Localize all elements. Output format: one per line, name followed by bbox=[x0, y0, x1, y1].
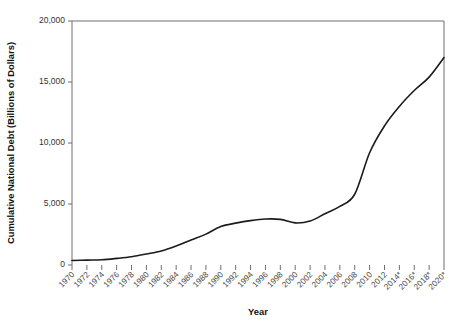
x-tick-label: 1970 bbox=[57, 270, 77, 290]
y-tick-label: 5,000 bbox=[44, 198, 66, 208]
x-tick-label: 1986 bbox=[176, 270, 196, 290]
y-axis-title: Cumulative National Debt (Billions of Do… bbox=[5, 42, 16, 244]
x-tick-label: 2004 bbox=[310, 270, 330, 290]
national-debt-line-chart: Cumulative National Debt (Billions of Do… bbox=[0, 0, 464, 329]
x-tick-label: 2010 bbox=[355, 270, 375, 290]
x-tick-label: 1984 bbox=[161, 270, 181, 290]
x-tick-label: 1990 bbox=[206, 270, 226, 290]
x-tick-label: 1980 bbox=[132, 270, 152, 290]
x-tick-label: 2002 bbox=[295, 270, 315, 290]
x-tick-label: 2020* bbox=[427, 269, 449, 291]
x-tick-label: 1982 bbox=[146, 270, 166, 290]
plot-frame bbox=[72, 21, 444, 265]
x-tick-label: 1994 bbox=[236, 270, 256, 290]
chart-container: Cumulative National Debt (Billions of Do… bbox=[0, 0, 464, 329]
x-tick-label: 2008 bbox=[340, 270, 360, 290]
y-tick-label: 15,000 bbox=[39, 76, 65, 86]
x-tick-label: 1998 bbox=[265, 270, 285, 290]
x-tick-label: 1972 bbox=[72, 270, 92, 290]
debt-series-line bbox=[72, 58, 444, 261]
x-tick-label: 1976 bbox=[102, 270, 122, 290]
x-tick-label: 1978 bbox=[117, 270, 137, 290]
y-tick-label: 20,000 bbox=[39, 15, 65, 25]
x-axis-title: Year bbox=[248, 306, 268, 317]
y-axis: 05,00010,00015,00020,000 bbox=[39, 15, 72, 269]
x-tick-label: 1992 bbox=[221, 270, 241, 290]
x-tick-label: 2006 bbox=[325, 270, 345, 290]
y-tick-label: 0 bbox=[60, 259, 65, 269]
y-tick-label: 10,000 bbox=[39, 137, 65, 147]
x-axis: 1970197219741976197819801982198419861988… bbox=[57, 265, 449, 292]
x-tick-label: 1974 bbox=[87, 270, 107, 290]
x-tick-label: 1996 bbox=[251, 270, 271, 290]
x-tick-label: 2000 bbox=[280, 270, 300, 290]
x-tick-label: 1988 bbox=[191, 270, 211, 290]
